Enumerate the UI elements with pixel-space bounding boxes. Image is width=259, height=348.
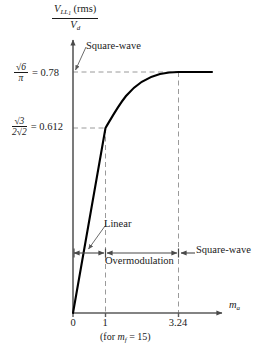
figure-footnote: (for mf = 15) [100, 332, 151, 344]
x-axis-title: ma [229, 300, 240, 312]
y-tick-fraction-sqrt3-2sqrt2: √3 2√2 [12, 116, 27, 137]
x-tick-label-324: 3.24 [164, 317, 192, 328]
y-tick-fraction-sqrt6-pi: √6 π [14, 62, 28, 83]
y-axis-title-denominator: Vd [52, 19, 98, 32]
annotation-linear: Linear [104, 219, 131, 230]
axes [73, 40, 222, 317]
voltage-vs-modulation-curve [73, 72, 212, 313]
annotation-square-wave-top: Square-wave [86, 41, 141, 52]
annotation-square-wave-right: Square-wave [196, 245, 251, 256]
chart-canvas [0, 0, 259, 348]
y-tick-value-0612: = 0.612 [31, 121, 63, 132]
annotation-overmodulation: Overmodulation [105, 256, 174, 267]
linear-leader [89, 226, 106, 249]
square-wave-top-leader [76, 47, 87, 70]
y-axis-title-numerator: VLL1 (rms) [52, 4, 98, 19]
figure-container: VLL1 (rms) Vd √6 π = 0.78 √3 2√2 = 0.612… [0, 0, 259, 348]
y-tick-label-078: √6 π = 0.78 [14, 62, 59, 83]
y-axis-title: VLL1 (rms) Vd [52, 4, 98, 32]
x-tick-label-0: 0 [66, 317, 80, 328]
data-curve-group [73, 72, 212, 313]
y-tick-label-0612: √3 2√2 = 0.612 [12, 116, 63, 137]
x-tick-label-1: 1 [98, 317, 112, 328]
y-tick-value-078: = 0.78 [32, 67, 59, 78]
